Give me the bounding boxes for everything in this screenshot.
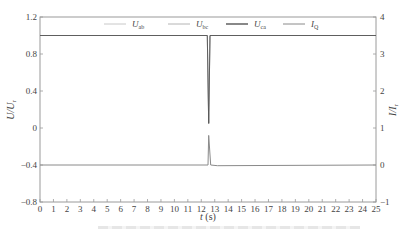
- x-tick-label: 0: [38, 204, 43, 214]
- legend: UabUbcUcaIQ: [104, 19, 319, 30]
- x-tick-label: 1: [51, 204, 56, 214]
- legend-item-u-ca: Uca: [226, 19, 266, 30]
- x-tick-label: 24: [358, 204, 368, 214]
- x-tick-label: 11: [184, 204, 193, 214]
- x-tick-label: 22: [331, 204, 340, 214]
- x-tick-label: 19: [291, 204, 301, 214]
- x-tick-label: 10: [170, 204, 180, 214]
- x-tick-label: 20: [304, 204, 314, 214]
- right-y-axis-title: I/Ir: [387, 103, 400, 116]
- x-tick-label: 23: [345, 204, 355, 214]
- x-tick-label: 15: [237, 204, 247, 214]
- right-y-tick-label: 0: [380, 160, 385, 170]
- left-y-tick-label: 0.4: [26, 86, 38, 96]
- x-tick-label: 8: [145, 204, 150, 214]
- right-y-tick-label: 2: [380, 86, 385, 96]
- x-tick-label: 3: [78, 204, 83, 214]
- chart: 0123456789101112131415161718192021222324…: [0, 0, 405, 235]
- right-y-tick-label: −1: [380, 197, 390, 207]
- x-tick-label: 17: [264, 204, 274, 214]
- series-layer: [40, 36, 376, 166]
- left-y-tick-label: 1.2: [26, 12, 37, 22]
- x-tick-label: 5: [105, 204, 110, 214]
- x-tick-label: 2: [65, 204, 70, 214]
- svg-text:IQ: IQ: [310, 19, 319, 30]
- svg-text:Uab: Uab: [132, 19, 144, 30]
- right-y-tick-label: 3: [380, 49, 385, 59]
- legend-item-u-bc: Ubc: [168, 19, 209, 30]
- x-tick-label: 9: [159, 204, 164, 214]
- x-tick-label: 18: [277, 204, 287, 214]
- left-y-tick-label: −0.8: [21, 197, 38, 207]
- left-y-axis-title: U/Ur: [5, 100, 18, 120]
- figure-caption: [98, 226, 360, 229]
- left-y-tick-label: −0.4: [21, 160, 38, 170]
- svg-text:Ubc: Ubc: [196, 19, 209, 30]
- x-tick-label: 21: [318, 204, 327, 214]
- x-tick-label: 4: [92, 204, 97, 214]
- legend-item-i-q: IQ: [283, 19, 319, 30]
- right-y-tick-label: 1: [380, 123, 385, 133]
- left-y-tick-label: 0.8: [26, 49, 38, 59]
- svg-text:Uca: Uca: [254, 19, 266, 30]
- legend-item-u-ab: Uab: [104, 19, 144, 30]
- x-tick-label: 6: [118, 204, 123, 214]
- left-y-tick-label: 0: [33, 123, 38, 133]
- x-axis-title: t (s): [200, 211, 216, 223]
- x-tick-label: 7: [132, 204, 137, 214]
- x-tick-label: 16: [251, 204, 261, 214]
- series-i-q: [40, 135, 376, 165]
- right-y-tick-label: 4: [380, 12, 385, 22]
- x-tick-label: 14: [224, 204, 234, 214]
